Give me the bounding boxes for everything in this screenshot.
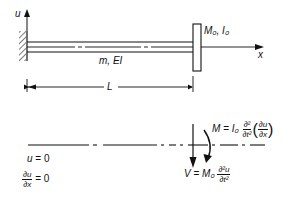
u-axis-arrow — [24, 9, 30, 31]
tip-mass-label: M₀, I₀ — [204, 26, 229, 36]
tip-mass — [193, 24, 201, 71]
fixed-support — [19, 31, 27, 61]
x-axis-centerline — [27, 44, 264, 50]
moment-arrow — [204, 130, 213, 163]
length-label: L — [107, 82, 113, 92]
shear-equation: V = M₀ ∂²u ∂t² — [184, 165, 230, 184]
beam-properties-label: m, EI — [99, 56, 122, 66]
moment-equation: M = I₀ ∂² ∂t² ( ∂u ∂x ) — [212, 120, 273, 139]
u-axis-label: u — [15, 9, 21, 19]
bc-displacement: u = 0 — [27, 154, 50, 164]
shear-force-arrow — [190, 124, 197, 168]
bc-slope: ∂u ∂x = 0 — [22, 170, 49, 189]
beam-diagram — [0, 0, 307, 198]
x-axis-label: x — [258, 50, 263, 60]
